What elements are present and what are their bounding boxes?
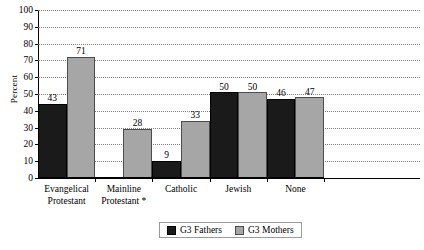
x-tick-mark — [152, 178, 153, 182]
bar-group: 5050 — [210, 10, 267, 178]
bar-value-label: 43 — [48, 94, 58, 104]
chart-legend: G3 Fathers G3 Mothers — [159, 222, 302, 238]
x-axis-label-line: Protestant * — [95, 196, 152, 208]
bar-chart: Percent 1009080706050403020100 437128933… — [0, 0, 424, 250]
bar-pair: 4371 — [38, 10, 95, 178]
legend-item-mothers: G3 Mothers — [235, 225, 294, 235]
y-tick-label-40: 40 — [24, 106, 34, 116]
x-axis-label-line: Protestant — [38, 196, 95, 208]
bar-value-label: 71 — [76, 47, 86, 57]
bar-value-label: 46 — [276, 89, 286, 99]
bar-value-label: 47 — [305, 88, 315, 98]
legend-swatch-fathers-icon — [167, 226, 176, 235]
x-axis-line — [38, 177, 324, 178]
bar-pair: 5050 — [210, 10, 267, 178]
bar-value-label: 28 — [133, 119, 143, 129]
y-tick-label-100: 100 — [19, 5, 33, 15]
y-tick-label-20: 20 — [24, 139, 34, 149]
y-tick-label-70: 70 — [24, 55, 34, 65]
x-axis-label-line: Catholic — [152, 184, 209, 196]
bar-group: 28 — [95, 10, 152, 178]
x-axis-label-line: Jewish — [210, 184, 267, 196]
x-tick-mark — [267, 178, 268, 182]
y-tick-label-10: 10 — [24, 156, 34, 166]
y-tick-label-30: 30 — [24, 123, 34, 133]
x-axis-label: Catholic — [152, 184, 209, 207]
bar-groups: 43712893350504647 — [38, 10, 324, 178]
y-tick-mark-0 — [35, 178, 38, 179]
bar-fathers: 9 — [152, 161, 181, 178]
x-tick-mark — [95, 178, 96, 182]
bar-mothers: 50 — [238, 92, 267, 178]
bar-mothers: 47 — [295, 97, 324, 178]
plot-area: 1009080706050403020100 43712893350504647 — [38, 10, 420, 178]
x-tick-mark — [324, 178, 325, 182]
bar-pair: 4647 — [267, 10, 324, 178]
y-axis-title: Percent — [9, 54, 19, 124]
x-axis-label: MainlineProtestant * — [95, 184, 152, 207]
y-tick-label-50: 50 — [24, 89, 34, 99]
bar-value-label: 33 — [191, 111, 201, 121]
bar-value-label: 9 — [164, 151, 169, 161]
bar-fathers: 46 — [267, 99, 296, 178]
bar-pair: 933 — [152, 10, 209, 178]
y-tick-label-80: 80 — [24, 39, 34, 49]
x-axis-label-line: Evangelical — [38, 184, 95, 196]
bar-group: 4371 — [38, 10, 95, 178]
bar-mothers: 71 — [67, 57, 96, 178]
x-axis-label: Jewish — [210, 184, 267, 207]
bar-value-label: 50 — [248, 83, 258, 93]
x-axis-label-line: Mainline — [95, 184, 152, 196]
legend-swatch-mothers-icon — [235, 226, 244, 235]
bar-pair: 28 — [95, 10, 152, 178]
x-axis-labels: EvangelicalProtestantMainlineProtestant … — [38, 184, 324, 207]
bar-mothers: 28 — [123, 129, 153, 178]
y-tick-label-90: 90 — [24, 22, 34, 32]
x-tick-mark — [210, 178, 211, 182]
bar-group: 4647 — [267, 10, 324, 178]
y-tick-label-60: 60 — [24, 72, 34, 82]
bar-fathers: 50 — [210, 92, 239, 178]
x-axis-label: EvangelicalProtestant — [38, 184, 95, 207]
x-axis-label-line: None — [267, 184, 324, 196]
bar-fathers: 43 — [38, 104, 67, 178]
legend-label-mothers: G3 Mothers — [248, 225, 294, 235]
bar-mothers: 33 — [181, 121, 210, 178]
x-axis-label: None — [267, 184, 324, 207]
bar-group: 933 — [152, 10, 209, 178]
y-tick-label-0: 0 — [28, 173, 33, 183]
legend-label-fathers: G3 Fathers — [180, 225, 222, 235]
bar-value-label: 50 — [219, 83, 229, 93]
legend-item-fathers: G3 Fathers — [167, 225, 222, 235]
